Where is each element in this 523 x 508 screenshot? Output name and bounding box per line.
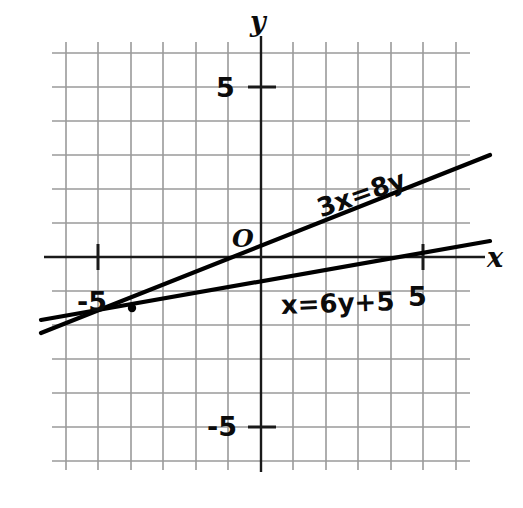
x-axis-label: x [487, 244, 503, 271]
origin-label: O [232, 226, 254, 251]
intersection-point-dot [128, 304, 136, 312]
x-tick-label-minus-5: -5 [77, 288, 107, 315]
y-axis-label: y [250, 8, 266, 35]
graph-figure: 3x=8y x=6y+5 y x O 5 -5 -5 5 [0, 0, 523, 508]
y-tick-label-5: 5 [216, 74, 235, 101]
equation-label-x-6y-5: x=6y+5 [281, 288, 395, 318]
coordinate-plane-svg [0, 0, 523, 508]
y-tick-label-minus-5: -5 [207, 413, 237, 440]
x-tick-label-5: 5 [408, 283, 427, 310]
